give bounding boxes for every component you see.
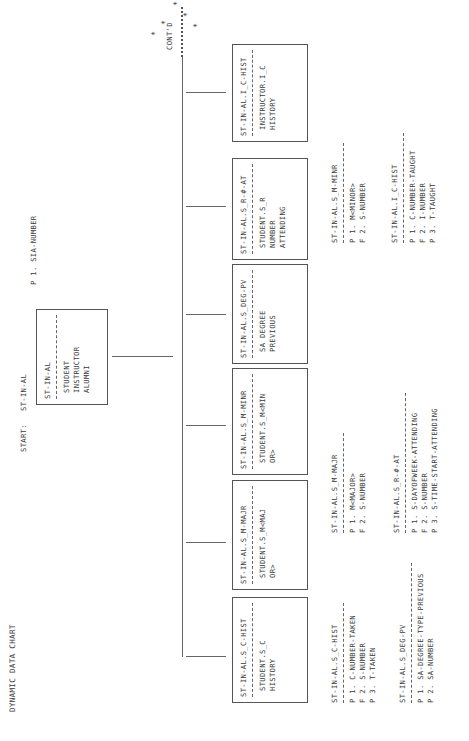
- entity-line: INSTRUCTOR.I_C: [258, 50, 268, 136]
- attribute-list-title: ST-IN-AL.S_M-MAJR: [330, 433, 340, 533]
- divider: [252, 603, 253, 697]
- root-entity-line: ALUMNI: [82, 315, 92, 399]
- child-connector-line: [186, 656, 226, 657]
- attribute-row: F 2. S-NUMBER: [420, 393, 430, 533]
- chart-title: DYNAMIC DATA CHART: [8, 624, 17, 712]
- attribute-list-s-m-minr: ST-IN-AL.S_M-MINR P 1. M<MINOR> F 2. S-N…: [330, 143, 368, 243]
- attribute-row: F 2. S-NUMBER: [358, 603, 368, 703]
- entity-box-s-m-minr[interactable]: ST-IN-AL.S_M-MINR STUDENT.S_M<MIN OR>: [232, 368, 308, 475]
- divider: [56, 315, 57, 399]
- dynamic-data-chart-page: DYNAMIC DATA CHART START: ST-IN-AL P 1. …: [0, 0, 469, 741]
- continued-label[interactable]: CONT'D: [165, 22, 174, 50]
- attribute-list-title: ST-IN-AL.S_M-MINR: [330, 143, 340, 243]
- start-label: START:: [19, 424, 28, 452]
- attribute-row: F 2. S-NUMBER: [358, 143, 368, 243]
- start-value: ST-IN-AL: [19, 374, 28, 411]
- root-entity-name: ST-IN-AL: [43, 315, 53, 399]
- root-key: P 1. SIA-NUMBER: [29, 216, 38, 285]
- entity-name: ST-IN-AL.S_M-MINR: [239, 374, 249, 469]
- attribute-row: P 3. S-TIME-START-ATTENDING: [430, 393, 440, 533]
- attribute-list-title: ST-IN-AL.I_C-HIST: [390, 133, 400, 243]
- attribute-list-title: ST-IN-AL.S_R-#-AT: [392, 393, 402, 533]
- entity-name: ST-IN-AL.S_C-HIST: [239, 603, 249, 697]
- attribute-list-s-r-num-at: ST-IN-AL.S_R-#-AT P 1. S-DAYOFWEEK-ATTEN…: [392, 393, 440, 533]
- attribute-row: F 2. I-NUMBER: [418, 133, 428, 243]
- attribute-row: P 1. M<MAJOR>: [348, 433, 358, 533]
- entity-line: OR>: [268, 374, 278, 469]
- child-connector-line: [186, 542, 226, 543]
- entity-name: ST-IN-AL.S_M-MAJR: [239, 486, 249, 584]
- entity-line: ATTENDING: [278, 164, 288, 254]
- child-connector-line: [186, 425, 226, 426]
- entity-line: OR>: [268, 486, 278, 584]
- entity-line: HISTORY: [268, 50, 278, 136]
- entity-name: ST-IN-AL.S_DEG-PV: [239, 270, 249, 358]
- entity-box-i-c-hist[interactable]: ST-IN-AL.I_C-HIST INSTRUCTOR.I_C HISTORY: [232, 44, 308, 142]
- divider: [343, 143, 344, 243]
- attribute-list-title: ST-IN-AL.S_C-HIST: [330, 603, 340, 703]
- attribute-row: P 2. SA-NUMBER: [426, 563, 436, 703]
- entity-name: ST-IN-AL.I_C-HIST: [239, 50, 249, 136]
- entity-line: SA DEGREE: [258, 270, 268, 358]
- root-entity-line: INSTRUCTOR: [72, 315, 82, 399]
- attribute-list-i-c-hist: ST-IN-AL.I_C-HIST P 1. C-NUMBER-TAUGHT F…: [390, 133, 438, 243]
- attribute-row: P 1. C-NUMBER-TAKEN: [348, 603, 358, 703]
- entity-box-s-deg-pv[interactable]: ST-IN-AL.S_DEG-PV SA DEGREE PREVIOUS: [232, 264, 308, 364]
- root-connector-line: [112, 356, 173, 357]
- asterisk-icon: *: [174, 1, 182, 6]
- entity-box-s-r-num-at[interactable]: ST-IN-AL.S_R-#-AT STUDENT.S_R NUMBER ATT…: [232, 158, 308, 260]
- entity-box-s-c-hist[interactable]: ST-IN-AL.S_C-HIST STUDENT.S_C HISTORY: [232, 597, 308, 703]
- attribute-list-title: ST-IN-AL.S_DEG-PV: [398, 563, 408, 703]
- divider: [252, 164, 253, 254]
- attribute-row: P 1. S-DAYOFWEEK-ATTENDING: [410, 393, 420, 533]
- divider: [343, 603, 344, 703]
- entity-line: NUMBER: [268, 164, 278, 254]
- attribute-list-s-deg-pv: ST-IN-AL.S_DEG-PV P 1. SA-DEGREE-TYPE-PR…: [398, 563, 436, 703]
- child-connector-line: [186, 314, 226, 315]
- asterisk-icon: *: [152, 31, 160, 36]
- entity-line: STUDENT.S_C: [258, 603, 268, 697]
- entity-box-s-m-majr[interactable]: ST-IN-AL.S_M-MAJR STUDENT.S_M<MAJ OR>: [232, 480, 308, 590]
- root-entity-line: STUDENT: [62, 315, 72, 399]
- entity-line: STUDENT.S_R: [258, 164, 268, 254]
- divider: [252, 270, 253, 358]
- child-connector-line: [186, 92, 226, 93]
- root-entity-box[interactable]: ST-IN-AL STUDENT INSTRUCTOR ALUMNI: [36, 309, 108, 405]
- attribute-row: P 3. T-TAUGHT: [428, 133, 438, 243]
- attribute-list-s-c-hist: ST-IN-AL.S_C-HIST P 1. C-NUMBER-TAKEN F …: [330, 603, 378, 703]
- divider: [252, 50, 253, 136]
- divider: [252, 374, 253, 469]
- entity-line: PREVIOUS: [268, 270, 278, 358]
- entity-line: STUDENT.S_M<MAJ: [258, 486, 268, 584]
- divider: [405, 393, 406, 533]
- asterisk-icon: *: [184, 12, 192, 17]
- attribute-row: F 2. S-NUMBER: [358, 433, 368, 533]
- attribute-list-s-m-majr: ST-IN-AL.S_M-MAJR P 1. M<MAJOR> F 2. S-N…: [330, 433, 368, 533]
- entity-name: ST-IN-AL.S_R-#-AT: [239, 164, 249, 254]
- divider: [403, 133, 404, 243]
- attribute-row: P 1. SA-DEGREE-TYPE-PREVIOUS: [416, 563, 426, 703]
- hierarchy-spine: [182, 57, 183, 657]
- divider: [411, 563, 412, 703]
- divider: [252, 486, 253, 584]
- entity-line: STUDENT.S_M<MIN: [258, 374, 268, 469]
- asterisk-icon: *: [194, 23, 202, 28]
- child-connector-line: [186, 206, 226, 207]
- entity-line: HISTORY: [268, 603, 278, 697]
- attribute-row: P 1. C-NUMBER-TAUGHT: [408, 133, 418, 243]
- divider: [343, 433, 344, 533]
- attribute-row: P 1. M<MINOR>: [348, 143, 358, 243]
- attribute-row: P 3. T-TAKEN: [368, 603, 378, 703]
- asterisk-icon: *: [162, 20, 170, 25]
